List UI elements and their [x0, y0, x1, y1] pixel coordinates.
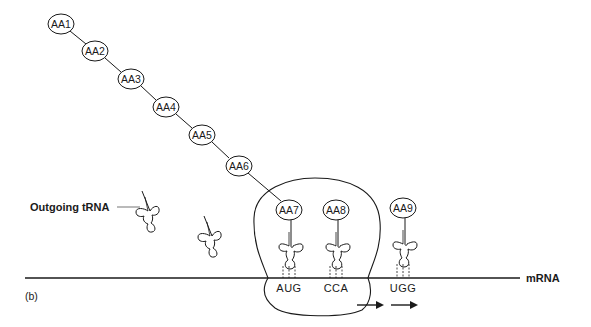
amino-acid-aa1: AA1 [48, 14, 74, 34]
amino-acid-aa9: AA9 [390, 198, 416, 218]
ribosome [254, 178, 380, 316]
svg-text:AA4: AA4 [156, 101, 176, 113]
codon-aug: AUG [276, 282, 301, 294]
amino-acid-aa4: AA4 [153, 97, 179, 117]
mrna-label: mRNA [526, 272, 560, 284]
amino-acid-aa8: AA8 [323, 200, 349, 220]
svg-text:AA8: AA8 [326, 204, 346, 216]
trna-p-site [279, 220, 303, 269]
amino-acid-aa7: AA7 [276, 200, 302, 220]
translation-diagram: mRNA AA1 AA2 AA3 AA4 AA5 AA6 AA7 AA8 AA9 [0, 0, 591, 327]
trna-incoming [393, 218, 417, 267]
amino-acid-aa6: AA6 [226, 156, 252, 176]
svg-text:AA6: AA6 [229, 160, 249, 172]
panel-label: (b) [25, 290, 38, 302]
svg-text:AA2: AA2 [85, 45, 105, 57]
codon-cca: CCA [324, 282, 349, 294]
svg-text:AA7: AA7 [279, 204, 299, 216]
outgoing-trna-label: Outgoing tRNA [30, 201, 109, 213]
codon-pairing-lines [283, 264, 409, 278]
amino-acid-aa5: AA5 [189, 125, 215, 145]
codon-ugg: UGG [390, 282, 417, 294]
svg-text:AA1: AA1 [51, 18, 71, 30]
trna-a-site [326, 220, 350, 269]
svg-text:AA5: AA5 [192, 129, 212, 141]
trna-outgoing-2 [198, 216, 221, 257]
svg-text:AA3: AA3 [121, 73, 141, 85]
amino-acid-aa2: AA2 [82, 41, 108, 61]
amino-acid-aa3: AA3 [118, 69, 144, 89]
trna-outgoing-1 [136, 191, 159, 232]
svg-text:AA9: AA9 [393, 202, 413, 214]
